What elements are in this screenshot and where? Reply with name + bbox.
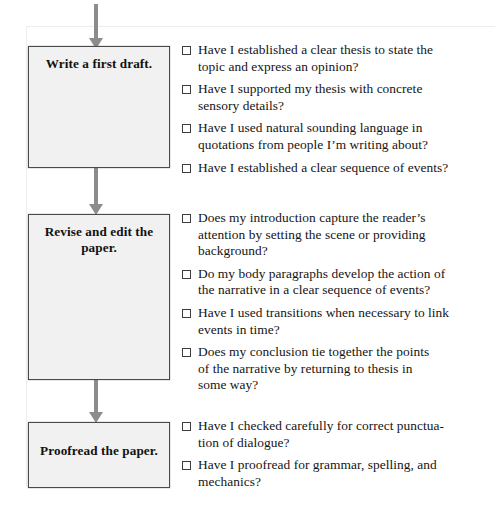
checklist-item-label: Have I established a clear sequence of e… bbox=[198, 160, 488, 177]
checklist-item[interactable]: Have I used natural sounding language in… bbox=[182, 120, 488, 153]
checklist-item-label: Have I used transitions when necessary t… bbox=[198, 305, 488, 338]
checklist-item[interactable]: Does my conclusion tie together the poin… bbox=[182, 344, 488, 394]
checkbox-icon[interactable] bbox=[182, 46, 191, 55]
checklist-item-label: Have I established a clear thesis to sta… bbox=[198, 42, 488, 75]
stage-box-write-first-draft: Write a first draft. bbox=[28, 46, 170, 168]
checklist-item-label: Have I used natural sounding language in… bbox=[198, 120, 488, 153]
checklist-item[interactable]: Have I checked carefully for correct pun… bbox=[182, 418, 488, 451]
stage-label-revise-and-edit: Revise and edit the paper. bbox=[37, 224, 161, 256]
checklist-item[interactable]: Have I used transitions when necessary t… bbox=[182, 305, 488, 338]
checklist-item-label: Have I proofread for grammar, spelling, … bbox=[198, 457, 488, 490]
checkbox-icon[interactable] bbox=[182, 164, 191, 173]
checklist-item-label: Does my conclusion tie together the poin… bbox=[198, 344, 488, 394]
checklist-item-label: Have I supported my thesis with concrete… bbox=[198, 81, 488, 114]
checklist-item[interactable]: Have I supported my thesis with concrete… bbox=[182, 81, 488, 114]
checklist-item[interactable]: Have I established a clear sequence of e… bbox=[182, 160, 488, 177]
checklist-item[interactable]: Have I proofread for grammar, spelling, … bbox=[182, 457, 488, 490]
checklist-item[interactable]: Have I established a clear thesis to sta… bbox=[182, 42, 488, 75]
arrow-shaft bbox=[94, 4, 98, 39]
checklist-write-first-draft: Have I established a clear thesis to sta… bbox=[182, 42, 488, 176]
stage-label-write-first-draft: Write a first draft. bbox=[37, 56, 161, 72]
checkbox-icon[interactable] bbox=[182, 348, 191, 357]
checklist-item[interactable]: Does my introduction capture the reader’… bbox=[182, 210, 488, 260]
checkbox-icon[interactable] bbox=[182, 309, 191, 318]
stage-box-proofread: Proofread the paper. bbox=[28, 422, 170, 488]
checklist-revise-and-edit: Does my introduction capture the reader’… bbox=[182, 210, 488, 394]
checkbox-icon[interactable] bbox=[182, 270, 191, 279]
checkbox-icon[interactable] bbox=[182, 461, 191, 470]
checkbox-icon[interactable] bbox=[182, 422, 191, 431]
checkbox-icon[interactable] bbox=[182, 124, 191, 133]
down-arrow-icon-into-write-first-draft bbox=[87, 4, 105, 50]
checkbox-icon[interactable] bbox=[182, 214, 191, 223]
checklist-item-label: Have I checked carefully for correct pun… bbox=[198, 418, 488, 451]
stage-box-revise-and-edit: Revise and edit the paper. bbox=[28, 214, 170, 380]
checkbox-icon[interactable] bbox=[182, 85, 191, 94]
checklist-proofread: Have I checked carefully for correct pun… bbox=[182, 418, 488, 490]
checklist-item-label: Does my introduction capture the reader’… bbox=[198, 210, 488, 260]
checklist-item-label: Do my body paragraphs develop the action… bbox=[198, 266, 488, 299]
checklist-item[interactable]: Do my body paragraphs develop the action… bbox=[182, 266, 488, 299]
stage-label-proofread: Proofread the paper. bbox=[37, 443, 161, 459]
